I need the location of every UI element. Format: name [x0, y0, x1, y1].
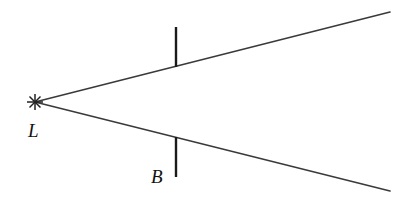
lower-ray: [35, 102, 390, 191]
barrier-label: B: [151, 166, 163, 187]
source-label: L: [27, 120, 39, 141]
diagram-canvas: L B: [0, 0, 418, 198]
upper-ray: [35, 12, 390, 102]
light-source-icon: [27, 94, 43, 110]
